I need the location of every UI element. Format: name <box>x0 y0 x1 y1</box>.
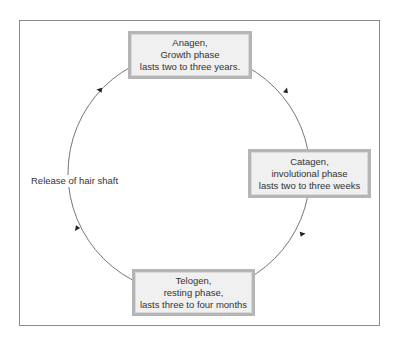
release-label: Release of hair shaft <box>30 175 119 187</box>
anagen-box: Anagen, Growth phase lasts two to three … <box>128 31 252 79</box>
catagen-duration: lasts two to three weeks <box>259 180 360 192</box>
telogen-phase: resting phase, <box>164 287 224 299</box>
anagen-phase: Growth phase <box>160 49 219 61</box>
telogen-title: Telogen, <box>176 275 212 287</box>
anagen-duration: lasts two to three years. <box>140 61 240 73</box>
telogen-duration: lasts three to four months <box>140 299 247 311</box>
anagen-title: Anagen, <box>172 37 207 49</box>
catagen-title: Catagen, <box>290 156 329 168</box>
catagen-box: Catagen, involutional phase lasts two to… <box>248 149 371 198</box>
catagen-phase: involutional phase <box>271 168 347 180</box>
telogen-box: Telogen, resting phase, lasts three to f… <box>132 269 255 316</box>
